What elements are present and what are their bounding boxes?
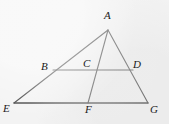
vertex-label-F: F <box>85 104 92 115</box>
geometry-figure: A B C D E F G <box>0 0 169 124</box>
segment-AE <box>14 30 108 103</box>
segment-AF <box>88 30 108 103</box>
vertex-label-E: E <box>3 103 10 114</box>
vertex-label-B: B <box>41 61 48 72</box>
vertex-label-C: C <box>83 58 90 69</box>
segment-AG <box>108 30 148 103</box>
vertex-label-A: A <box>104 10 111 21</box>
segment-group <box>14 30 148 103</box>
vertex-label-D: D <box>133 59 141 70</box>
vertex-label-G: G <box>150 104 158 115</box>
